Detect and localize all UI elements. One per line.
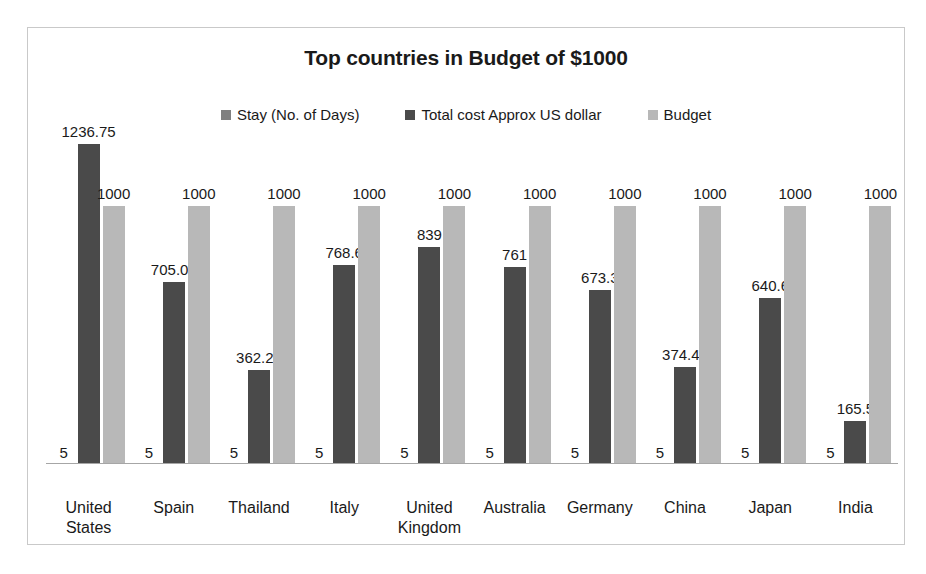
bar-budget[interactable] xyxy=(699,206,721,464)
category-label: Italy xyxy=(302,498,387,538)
bar-wrap-stay: 5 xyxy=(138,128,160,464)
bar-group: 5640.61000 xyxy=(728,128,813,464)
legend-item-budget[interactable]: Budget xyxy=(648,106,712,123)
category-label-line: Italy xyxy=(302,498,387,518)
bar-label-stay: 5 xyxy=(826,445,834,460)
bar-wrap-total-cost: 761 xyxy=(504,128,526,464)
category-label: India xyxy=(813,498,898,538)
bar-label-total-cost: 761 xyxy=(502,247,527,262)
bar-wrap-budget: 1000 xyxy=(188,128,210,464)
bar-total-cost[interactable] xyxy=(674,367,696,464)
bar-group: 57611000 xyxy=(472,128,557,464)
bar-wrap-total-cost: 705.05 xyxy=(163,128,185,464)
bar-label-stay: 5 xyxy=(230,445,238,460)
bar-label-stay: 5 xyxy=(145,445,153,460)
bar-wrap-total-cost: 640.6 xyxy=(759,128,781,464)
bar-group: 5165.51000 xyxy=(813,128,898,464)
bar-wrap-total-cost: 839 xyxy=(418,128,440,464)
bar-total-cost[interactable] xyxy=(248,370,270,464)
bar-label-stay: 5 xyxy=(485,445,493,460)
category-label: Japan xyxy=(728,498,813,538)
category-label: Germany xyxy=(557,498,642,538)
bar-wrap-budget: 1000 xyxy=(358,128,380,464)
bar-budget[interactable] xyxy=(614,206,636,464)
bar-wrap-total-cost: 165.5 xyxy=(844,128,866,464)
bar-total-cost[interactable] xyxy=(504,267,526,464)
bar-total-cost[interactable] xyxy=(418,247,440,464)
bar-wrap-stay: 5 xyxy=(308,128,330,464)
category-label-line: United xyxy=(387,498,472,518)
bar-wrap-stay: 5 xyxy=(734,128,756,464)
bar-group: 5374.451000 xyxy=(642,128,727,464)
category-label-line: Germany xyxy=(557,498,642,518)
bar-label-budget: 1000 xyxy=(267,186,300,201)
bar-label-budget: 1000 xyxy=(779,186,812,201)
bar-label-stay: 5 xyxy=(315,445,323,460)
bar-budget[interactable] xyxy=(188,206,210,464)
legend-swatch-budget xyxy=(648,110,658,120)
bar-label-budget: 1000 xyxy=(523,186,556,201)
bar-group: 5673.31000 xyxy=(557,128,642,464)
plot-area: 51236.7510005705.0510005362.2510005768.6… xyxy=(46,128,898,464)
legend-item-total-cost[interactable]: Total cost Approx US dollar xyxy=(405,106,601,123)
bar-label-stay: 5 xyxy=(400,445,408,460)
bar-label-stay: 5 xyxy=(656,445,664,460)
bar-wrap-budget: 1000 xyxy=(699,128,721,464)
bar-wrap-budget: 1000 xyxy=(443,128,465,464)
chart-container: Top countries in Budget of $1000 Stay (N… xyxy=(27,27,905,545)
bar-label-total-cost: 839 xyxy=(417,227,442,242)
bar-label-budget: 1000 xyxy=(693,186,726,201)
bar-budget[interactable] xyxy=(103,206,125,464)
bar-wrap-budget: 1000 xyxy=(784,128,806,464)
bar-label-budget: 1000 xyxy=(97,186,130,201)
bar-group: 58391000 xyxy=(387,128,472,464)
category-label-line: Kingdom xyxy=(387,518,472,538)
chart-legend: Stay (No. of Days) Total cost Approx US … xyxy=(28,106,904,123)
bar-wrap-budget: 1000 xyxy=(529,128,551,464)
bar-total-cost[interactable] xyxy=(759,298,781,464)
category-label-line: States xyxy=(46,518,131,538)
category-label-line: Japan xyxy=(728,498,813,518)
bar-wrap-stay: 5 xyxy=(479,128,501,464)
bar-wrap-total-cost: 673.3 xyxy=(589,128,611,464)
legend-swatch-total-cost xyxy=(405,110,415,120)
bar-group: 5705.051000 xyxy=(131,128,216,464)
bar-total-cost[interactable] xyxy=(163,282,185,464)
bar-label-budget: 1000 xyxy=(182,186,215,201)
legend-item-stay[interactable]: Stay (No. of Days) xyxy=(221,106,360,123)
bar-wrap-stay: 5 xyxy=(393,128,415,464)
bar-wrap-total-cost: 374.45 xyxy=(674,128,696,464)
bar-budget[interactable] xyxy=(273,206,295,464)
bar-wrap-total-cost: 768.6 xyxy=(333,128,355,464)
bar-label-budget: 1000 xyxy=(438,186,471,201)
bar-group: 5768.61000 xyxy=(302,128,387,464)
bar-wrap-total-cost: 362.25 xyxy=(248,128,270,464)
legend-label-budget: Budget xyxy=(664,106,712,123)
legend-label-total-cost: Total cost Approx US dollar xyxy=(421,106,601,123)
bar-label-stay: 5 xyxy=(741,445,749,460)
bar-budget[interactable] xyxy=(443,206,465,464)
bar-group: 51236.751000 xyxy=(46,128,131,464)
bar-budget[interactable] xyxy=(358,206,380,464)
bar-wrap-stay: 5 xyxy=(223,128,245,464)
bar-wrap-budget: 1000 xyxy=(614,128,636,464)
bar-label-budget: 1000 xyxy=(864,186,897,201)
bar-group: 5362.251000 xyxy=(216,128,301,464)
bar-budget[interactable] xyxy=(869,206,891,464)
bar-groups: 51236.7510005705.0510005362.2510005768.6… xyxy=(46,128,898,464)
bar-total-cost[interactable] xyxy=(844,421,866,464)
bar-budget[interactable] xyxy=(784,206,806,464)
bar-total-cost[interactable] xyxy=(589,290,611,464)
category-label-line: China xyxy=(642,498,727,518)
category-label: UnitedStates xyxy=(46,498,131,538)
bar-wrap-budget: 1000 xyxy=(869,128,891,464)
bar-label-budget: 1000 xyxy=(353,186,386,201)
category-label-line: Spain xyxy=(131,498,216,518)
bar-total-cost[interactable] xyxy=(333,265,355,464)
legend-label-stay: Stay (No. of Days) xyxy=(237,106,360,123)
bar-wrap-stay: 5 xyxy=(564,128,586,464)
category-label-line: India xyxy=(813,498,898,518)
bar-budget[interactable] xyxy=(529,206,551,464)
chart-title: Top countries in Budget of $1000 xyxy=(28,46,904,70)
bar-label-stay: 5 xyxy=(59,445,67,460)
